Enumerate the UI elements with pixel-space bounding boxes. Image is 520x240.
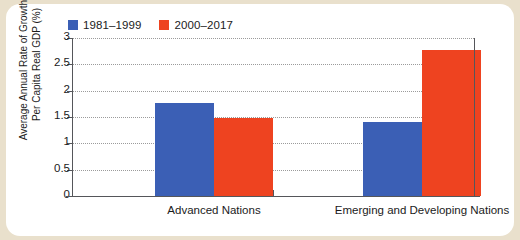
- plot-area: 00.511.522.53 Advanced NationsEmerging a…: [72, 38, 474, 196]
- x-axis-category-label: Advanced Nations: [104, 204, 324, 216]
- chart-figure: 1981–1999 2000–2017 Average Annual Rate …: [6, 4, 514, 236]
- y-tick-label: 3: [42, 30, 70, 42]
- bar: [363, 122, 422, 196]
- bar: [422, 50, 481, 196]
- legend-item-1981-1999[interactable]: 1981–1999: [68, 19, 141, 31]
- legend-swatch-1981-1999: [68, 20, 78, 30]
- y-axis-title-line-1: Average Annual Rate of Growth of: [18, 0, 31, 145]
- x-axis-center-tick: [273, 190, 274, 197]
- legend-label-2000-2017: 2000–2017: [174, 19, 232, 31]
- legend-item-2000-2017[interactable]: 2000–2017: [159, 19, 232, 31]
- y-tick-label: 0: [42, 188, 70, 200]
- y-tick-label: 1.5: [42, 109, 70, 121]
- y-tick-label: 2.5: [42, 56, 70, 68]
- gridline: [72, 64, 474, 65]
- gridline: [72, 38, 474, 39]
- bar: [214, 118, 273, 196]
- y-tick-label: 2: [42, 83, 70, 95]
- legend-label-1981-1999: 1981–1999: [83, 19, 141, 31]
- bar: [155, 103, 214, 196]
- chart-legend: 1981–1999 2000–2017: [68, 17, 233, 33]
- gridline: [72, 117, 474, 118]
- y-axis-title: Average Annual Rate of Growth of Per Cap…: [18, 0, 43, 145]
- gridline: [72, 91, 474, 92]
- y-tick-label: 1: [42, 135, 70, 147]
- y-axis-title-line-2: Per Capita Real GDP (%): [30, 0, 43, 145]
- x-axis-category-label: Emerging and Developing Nations: [312, 204, 520, 216]
- y-tick-label: 0.5: [42, 162, 70, 174]
- legend-swatch-2000-2017: [159, 20, 169, 30]
- y-axis-line: [72, 38, 73, 196]
- y-axis-line-right: [474, 38, 475, 196]
